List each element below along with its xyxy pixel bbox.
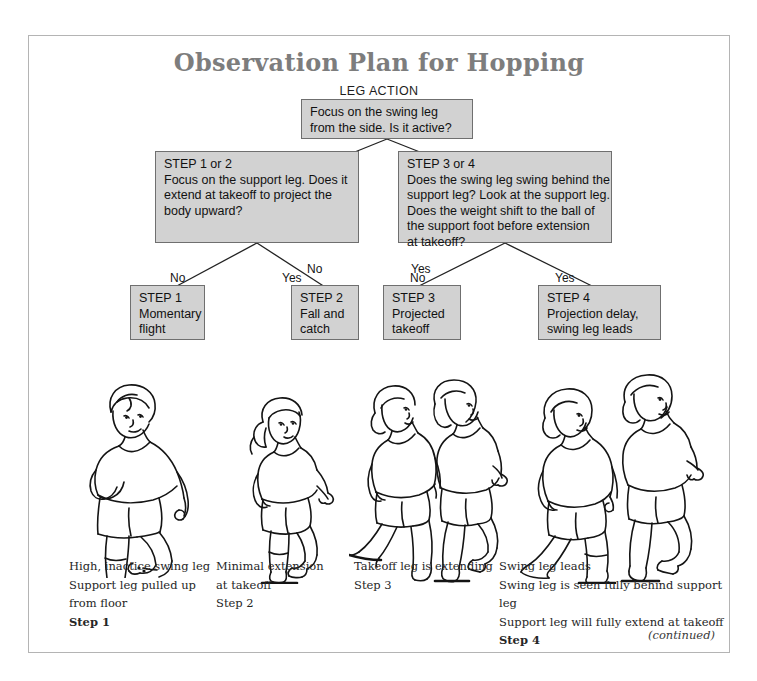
edge-label-right-no: No xyxy=(410,271,425,285)
right-line-3: support leg? Look at the support leg. xyxy=(407,188,604,204)
caption-2-line-1: Minimal extension xyxy=(216,557,324,576)
caption-4-line-2: Swing leg is seen fully behind support l… xyxy=(499,576,729,613)
caption-3-step-label: Step 3 xyxy=(354,576,493,595)
right-line-5: the support foot before extension xyxy=(407,219,604,235)
caption-1-line-3: from floor xyxy=(69,594,210,613)
illustration-step-4 xyxy=(519,374,704,584)
continued-note: (continued) xyxy=(648,628,715,642)
flow-node-step-4[interactable]: STEP 4 Projection delay, swing leg leads xyxy=(538,285,661,340)
figure-page: Observation Plan for Hopping LEG ACTION … xyxy=(28,35,730,653)
flow-node-step-3-or-4[interactable]: STEP 3 or 4 Does the swing leg swing beh… xyxy=(398,151,612,243)
flow-node-step-1[interactable]: STEP 1 Momentary flight xyxy=(130,285,205,340)
illustration-step-2 xyxy=(229,394,349,584)
edge-label-root-no: No xyxy=(307,262,322,276)
step2-line-2: Fall and xyxy=(300,307,351,323)
step1-line-2: Momentary xyxy=(139,307,197,323)
caption-step-2: Minimal extension at takeoff Step 2 xyxy=(216,557,324,613)
left-line-3: extend at takeoff to project the xyxy=(164,188,351,204)
step1-line-1: STEP 1 xyxy=(139,291,197,307)
caption-1-line-1: High, inactice swing leg xyxy=(69,557,210,576)
edge-label-left-yes: Yes xyxy=(282,271,302,285)
caption-2-line-2: at takeoff xyxy=(216,576,324,595)
caption-4-line-1: Swing leg leads xyxy=(499,557,729,576)
step3-line-1: STEP 3 xyxy=(392,291,453,307)
flowchart: Focus on the swing leg from the side. Is… xyxy=(29,36,731,356)
root-line-1: Focus on the swing leg xyxy=(310,105,465,121)
edge-label-left-no: No xyxy=(170,271,185,285)
step2-line-1: STEP 2 xyxy=(300,291,351,307)
illustration-step-3 xyxy=(349,378,509,583)
step4-line-2: Projection delay, xyxy=(547,307,653,323)
caption-step-1: High, inactice swing leg Support leg pul… xyxy=(69,557,210,631)
left-line-2: Focus on the support leg. Does it xyxy=(164,173,351,189)
left-line-4: body upward? xyxy=(164,204,351,220)
step3-line-2: Projected xyxy=(392,307,453,323)
illustration-step-1 xyxy=(67,378,207,578)
step4-line-1: STEP 4 xyxy=(547,291,653,307)
right-line-2: Does the swing leg swing behind the xyxy=(407,173,604,189)
left-line-1: STEP 1 or 2 xyxy=(164,157,351,173)
right-line-6: at takeoff? xyxy=(407,235,604,251)
flow-node-step-2[interactable]: STEP 2 Fall and catch xyxy=(291,285,359,340)
flow-node-step-3[interactable]: STEP 3 Projected takeoff xyxy=(383,285,461,340)
caption-1-line-2: Support leg pulled up xyxy=(69,576,210,595)
right-line-1: STEP 3 or 4 xyxy=(407,157,604,173)
flow-node-root[interactable]: Focus on the swing leg from the side. Is… xyxy=(301,99,473,139)
caption-2-step-label: Step 2 xyxy=(216,594,324,613)
caption-step-3: Takeoff leg is extending Step 3 xyxy=(354,557,493,594)
caption-3-line-1: Takeoff leg is extending xyxy=(354,557,493,576)
caption-1-step-label: Step 1 xyxy=(69,613,210,632)
illustration-row xyxy=(29,336,731,556)
root-line-2: from the side. Is it active? xyxy=(310,121,465,137)
right-line-4: Does the weight shift to the ball of xyxy=(407,204,604,220)
flow-node-step-1-or-2[interactable]: STEP 1 or 2 Focus on the support leg. Do… xyxy=(155,151,359,243)
edge-label-right-yes: Yes xyxy=(555,271,575,285)
